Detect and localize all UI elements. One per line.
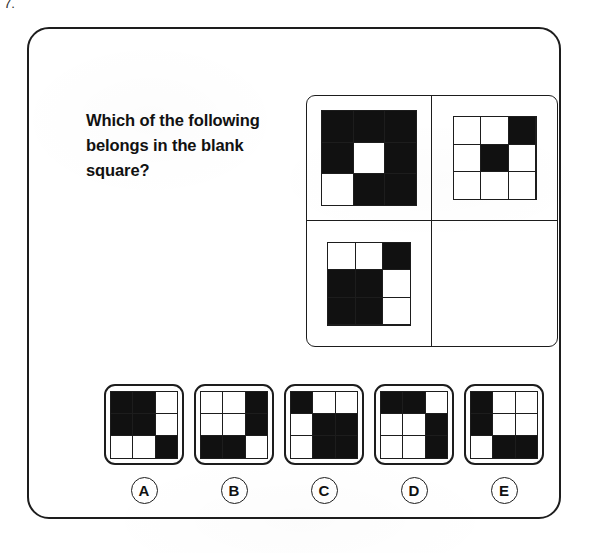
pattern-cell-r3c2 (493, 436, 514, 457)
option-b-box[interactable] (194, 384, 274, 465)
pattern-cell-r3c1 (111, 436, 132, 457)
pattern-cell-r2c1 (328, 270, 355, 297)
pattern-cell-r2c1 (201, 414, 222, 435)
pattern-cell-r1c2 (133, 392, 154, 413)
pattern-cell-r2c3 (156, 414, 177, 435)
pattern-cell-r1c3 (516, 392, 537, 413)
matrix-cell-blank-square (432, 221, 557, 346)
pattern-cell-r3c3 (426, 436, 447, 457)
pattern-grid-option-a (110, 391, 178, 459)
pattern-cell-r1c2 (481, 117, 508, 144)
pattern-cell-r3c2 (356, 298, 383, 325)
pattern-cell-r2c3 (246, 414, 267, 435)
pattern-cell-r3c1 (328, 298, 355, 325)
pattern-cell-r2c3 (336, 414, 357, 435)
pattern-cell-r1c1 (454, 117, 481, 144)
pattern-cell-r2c1 (291, 414, 312, 435)
question-number: 7. (4, 0, 15, 11)
matrix-cell-bottom-left (307, 221, 432, 346)
pattern-cell-r3c3 (156, 436, 177, 457)
pattern-cell-r1c2 (354, 111, 385, 142)
pattern-cell-r2c2 (403, 414, 424, 435)
pattern-cell-r2c3 (509, 145, 536, 172)
pattern-cell-r2c1 (111, 414, 132, 435)
pattern-cell-r3c1 (201, 436, 222, 457)
pattern-cell-r2c1 (322, 143, 353, 174)
pattern-grid-option-c (290, 391, 358, 459)
option-c[interactable]: C (284, 384, 364, 519)
pattern-cell-r3c3 (383, 298, 410, 325)
pattern-cell-r1c1 (111, 392, 132, 413)
pattern-cell-r3c2 (354, 174, 385, 205)
option-b[interactable]: B (194, 384, 274, 519)
pattern-cell-r1c2 (403, 392, 424, 413)
matrix-cell-top-left (307, 96, 432, 221)
option-c-box[interactable] (284, 384, 364, 465)
option-a-box[interactable] (104, 384, 184, 465)
pattern-cell-r2c3 (383, 270, 410, 297)
matrix-puzzle (306, 95, 558, 347)
pattern-cell-r3c1 (471, 436, 492, 457)
pattern-cell-r2c1 (381, 414, 402, 435)
pattern-cell-r2c3 (426, 414, 447, 435)
pattern-cell-r3c2 (133, 436, 154, 457)
pattern-cell-r1c3 (156, 392, 177, 413)
pattern-cell-r3c3 (509, 172, 536, 199)
pattern-cell-r2c1 (454, 145, 481, 172)
pattern-grid-bottom-left (327, 242, 411, 326)
pattern-cell-r3c1 (291, 436, 312, 457)
pattern-cell-r1c1 (291, 392, 312, 413)
question-card: Which of the following belongs in the bl… (27, 27, 561, 519)
pattern-cell-r2c3 (385, 143, 416, 174)
page-title: Which of the following belongs in the bl… (86, 108, 291, 183)
pattern-grid-option-e (470, 391, 538, 459)
pattern-grid-top-left (321, 110, 417, 206)
pattern-cell-r2c1 (471, 414, 492, 435)
pattern-cell-r3c3 (385, 174, 416, 205)
pattern-cell-r3c3 (246, 436, 267, 457)
pattern-cell-r2c2 (313, 414, 334, 435)
option-a[interactable]: A (104, 384, 184, 519)
pattern-cell-r3c2 (313, 436, 334, 457)
pattern-cell-r2c2 (133, 414, 154, 435)
pattern-cell-r1c1 (201, 392, 222, 413)
pattern-cell-r1c1 (381, 392, 402, 413)
pattern-cell-r1c2 (313, 392, 334, 413)
pattern-cell-r2c2 (481, 145, 508, 172)
option-a-label[interactable]: A (131, 477, 158, 504)
pattern-cell-r3c3 (516, 436, 537, 457)
option-d-box[interactable] (374, 384, 454, 465)
option-d[interactable]: D (374, 384, 454, 519)
pattern-cell-r2c3 (516, 414, 537, 435)
pattern-grid-option-b (200, 391, 268, 459)
option-e-box[interactable] (464, 384, 544, 465)
pattern-cell-r1c1 (328, 243, 355, 270)
option-d-label[interactable]: D (401, 477, 428, 504)
pattern-cell-r1c1 (471, 392, 492, 413)
pattern-cell-r1c3 (246, 392, 267, 413)
pattern-cell-r2c2 (356, 270, 383, 297)
pattern-cell-r2c2 (493, 414, 514, 435)
option-e-label[interactable]: E (491, 477, 518, 504)
pattern-grid-top-right (453, 116, 537, 200)
option-e[interactable]: E (464, 384, 544, 519)
pattern-cell-r3c1 (322, 174, 353, 205)
pattern-cell-r1c2 (493, 392, 514, 413)
pattern-cell-r1c3 (385, 111, 416, 142)
pattern-cell-r1c2 (356, 243, 383, 270)
pattern-cell-r2c2 (223, 414, 244, 435)
answer-options: A B C D E (104, 384, 544, 519)
pattern-cell-r3c2 (223, 436, 244, 457)
option-c-label[interactable]: C (311, 477, 338, 504)
pattern-cell-r3c2 (403, 436, 424, 457)
pattern-cell-r1c3 (383, 243, 410, 270)
option-b-label[interactable]: B (221, 477, 248, 504)
pattern-cell-r3c1 (454, 172, 481, 199)
pattern-cell-r1c3 (426, 392, 447, 413)
pattern-grid-option-d (380, 391, 448, 459)
pattern-cell-r1c1 (322, 111, 353, 142)
pattern-cell-r3c2 (481, 172, 508, 199)
pattern-cell-r1c3 (509, 117, 536, 144)
pattern-cell-r1c2 (223, 392, 244, 413)
pattern-cell-r3c1 (381, 436, 402, 457)
